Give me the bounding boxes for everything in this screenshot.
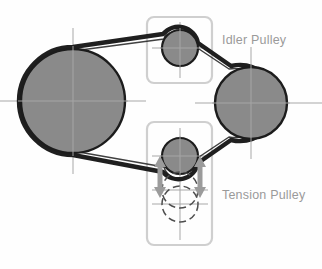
pulleys-group	[21, 30, 287, 174]
idler-pulley-label: Idler Pulley	[222, 33, 287, 47]
belt-drive-diagram: Idler Pulley Tension Pulley	[0, 0, 322, 269]
tension-pulley-label: Tension Pulley	[222, 188, 306, 202]
diagram-canvas: Idler Pulley Tension Pulley	[0, 0, 322, 269]
